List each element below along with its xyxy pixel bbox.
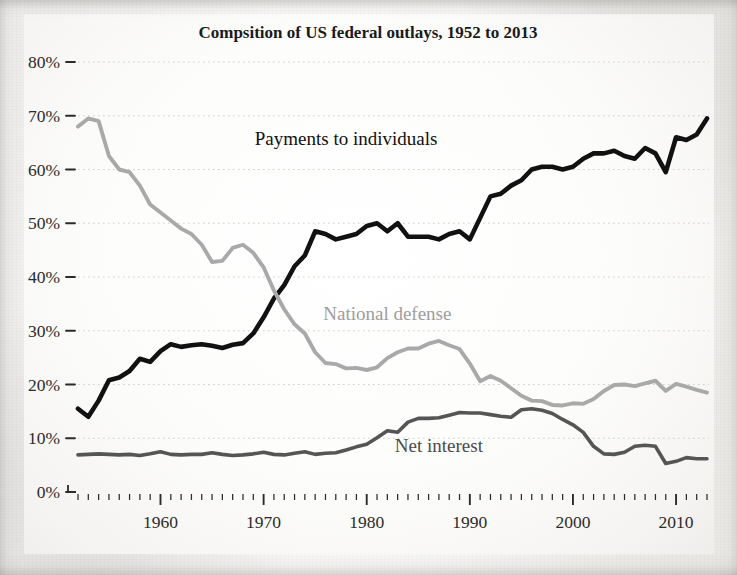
y-axis-tick-label: 80%: [28, 52, 60, 72]
x-axis-tick-label: 1970: [246, 512, 281, 532]
y-axis-tick-labels: 0%10%20%30%40%50%60%70%80%: [28, 52, 60, 502]
y-axis-tick-label: 40%: [28, 267, 60, 287]
x-axis-tick-label: 2000: [555, 512, 590, 532]
grid-lines: [78, 62, 709, 438]
x-axis-line: [68, 485, 76, 492]
chart-title: Compsition of US federal outlays, 1952 t…: [198, 23, 537, 42]
series-line: [78, 409, 707, 464]
data-series-lines: [78, 118, 707, 463]
y-axis-tick-label: 70%: [28, 106, 60, 126]
series-label: Net interest: [395, 435, 484, 456]
axis-origin-bracket: [68, 485, 76, 492]
y-axis-tick-label: 60%: [28, 160, 60, 180]
y-axis-tick-label: 0%: [37, 482, 60, 502]
x-axis-tick-label: 1990: [452, 512, 487, 532]
x-axis-tick-label: 2010: [659, 512, 694, 532]
series-label: Payments to individuals: [255, 128, 438, 149]
series-label: National defense: [323, 303, 451, 324]
chart-page: 0%10%20%30%40%50%60%70%80% 1960197019801…: [0, 0, 737, 575]
y-axis-ticks: [66, 62, 75, 492]
x-axis-tick-label: 1980: [349, 512, 384, 532]
y-axis-tick-label: 20%: [28, 375, 60, 395]
x-axis-tick-label: 1960: [143, 512, 178, 532]
series-line: [78, 118, 707, 416]
line-chart: 0%10%20%30%40%50%60%70%80% 1960197019801…: [0, 0, 737, 575]
y-axis-tick-label: 50%: [28, 213, 60, 233]
series-line: [78, 118, 707, 405]
y-axis-tick-label: 30%: [28, 321, 60, 341]
series-inline-labels: Payments to individualsNational defenseN…: [255, 128, 484, 455]
y-axis-tick-label: 10%: [28, 428, 60, 448]
x-axis-ticks: [78, 494, 707, 505]
x-axis-tick-labels: 196019701980199020002010: [143, 512, 694, 532]
